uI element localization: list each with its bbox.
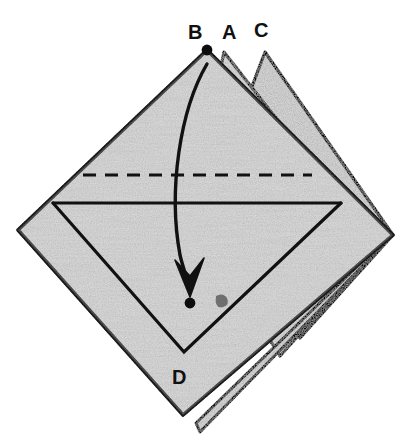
vertex-dot-b [202, 45, 213, 56]
paper-texture-streaks [18, 50, 393, 415]
origami-figure: B A C D [0, 0, 405, 436]
label-b: B [188, 22, 202, 42]
origami-svg [0, 0, 405, 436]
label-a: A [222, 22, 236, 42]
label-d: D [172, 367, 186, 387]
target-dot-d [185, 298, 196, 309]
label-c: C [254, 20, 268, 40]
